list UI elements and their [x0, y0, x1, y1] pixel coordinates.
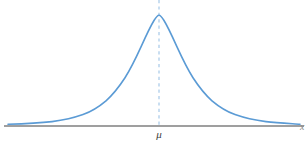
mean-tick-label: μ — [0, 129, 308, 140]
mean-symbol: μ — [156, 128, 162, 140]
normal-distribution-figure: μ x — [0, 0, 308, 149]
normal-density-curve — [8, 15, 300, 124]
distribution-plot — [0, 0, 308, 149]
x-axis-label: x — [300, 122, 304, 132]
